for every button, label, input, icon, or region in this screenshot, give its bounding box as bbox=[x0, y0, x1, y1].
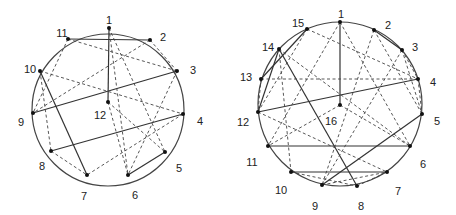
node-2 bbox=[148, 38, 152, 42]
node-label-6: 6 bbox=[132, 189, 138, 201]
node-label-4: 4 bbox=[430, 76, 436, 88]
boundary-circle bbox=[32, 34, 184, 186]
node-label-1: 1 bbox=[106, 14, 112, 26]
circular-graph-diagrams: 123456789101112 12345678910111213141516 bbox=[0, 0, 456, 215]
node-label-8: 8 bbox=[39, 160, 45, 172]
edge-14-6 bbox=[279, 49, 410, 146]
node-6 bbox=[126, 173, 130, 177]
edge-10-4 bbox=[40, 71, 183, 114]
edge-2-3 bbox=[374, 30, 402, 50]
node-label-11: 11 bbox=[56, 27, 67, 39]
edge-2-3 bbox=[150, 40, 177, 71]
node-1 bbox=[338, 20, 342, 24]
edge-1-11 bbox=[268, 22, 340, 146]
node-label-6: 6 bbox=[420, 158, 426, 170]
edge-15-13 bbox=[261, 29, 307, 79]
node-label-2: 2 bbox=[385, 19, 391, 31]
node-6 bbox=[408, 144, 412, 148]
node-7 bbox=[85, 173, 89, 177]
node-4 bbox=[416, 77, 420, 81]
node-2 bbox=[372, 28, 376, 32]
edge-2-9 bbox=[322, 30, 374, 185]
node-label-12: 12 bbox=[94, 109, 106, 121]
edge-3-4 bbox=[402, 50, 418, 79]
edge-12-7 bbox=[258, 112, 387, 172]
node-15 bbox=[305, 27, 309, 31]
node-16 bbox=[338, 103, 342, 107]
node-4 bbox=[181, 112, 185, 116]
node-7 bbox=[385, 170, 389, 174]
edge-12-6 bbox=[108, 102, 128, 175]
edge-3-9 bbox=[33, 71, 177, 113]
edge-5-6 bbox=[128, 152, 165, 175]
node-8 bbox=[49, 149, 53, 153]
node-label-16: 16 bbox=[325, 115, 337, 127]
node-label-8: 8 bbox=[358, 200, 364, 212]
node-3 bbox=[400, 48, 404, 52]
node-label-1: 1 bbox=[338, 8, 344, 20]
node-10 bbox=[38, 69, 42, 73]
edge-4-7 bbox=[87, 114, 183, 175]
node-8 bbox=[355, 184, 359, 188]
node-label-13: 13 bbox=[240, 71, 252, 83]
node-label-10: 10 bbox=[24, 63, 36, 75]
node-5 bbox=[163, 150, 167, 154]
edge-1-6 bbox=[340, 22, 410, 146]
node-1 bbox=[107, 26, 111, 30]
node-label-4: 4 bbox=[197, 115, 203, 127]
node-9 bbox=[31, 111, 35, 115]
node-9 bbox=[320, 183, 324, 187]
node-12 bbox=[106, 100, 110, 104]
node-label-15: 15 bbox=[292, 17, 304, 29]
node-10 bbox=[289, 170, 293, 174]
edge-8-7 bbox=[357, 172, 387, 186]
node-label-3: 3 bbox=[412, 41, 418, 53]
node-label-5: 5 bbox=[176, 162, 182, 174]
edge-4-8 bbox=[51, 114, 183, 151]
node-label-10: 10 bbox=[275, 184, 287, 196]
right-circle-graph: 12345678910111213141516 bbox=[237, 8, 440, 212]
node-label-7: 7 bbox=[81, 190, 87, 202]
node-label-3: 3 bbox=[190, 64, 196, 76]
node-label-9: 9 bbox=[18, 116, 24, 128]
node-12 bbox=[256, 110, 260, 114]
node-14 bbox=[277, 47, 281, 51]
node-13 bbox=[259, 77, 263, 81]
node-3 bbox=[175, 69, 179, 73]
node-label-7: 7 bbox=[395, 185, 401, 197]
node-label-11: 11 bbox=[246, 156, 257, 168]
node-label-14: 14 bbox=[262, 41, 274, 53]
node-label-9: 9 bbox=[312, 200, 318, 212]
node-11 bbox=[266, 144, 270, 148]
left-circle-graph: 123456789101112 bbox=[18, 14, 203, 202]
edge-15-4 bbox=[307, 29, 418, 79]
node-5 bbox=[420, 112, 424, 116]
node-label-2: 2 bbox=[160, 31, 166, 43]
edge-16-6 bbox=[340, 105, 410, 146]
node-label-12: 12 bbox=[237, 116, 249, 128]
node-label-5: 5 bbox=[434, 115, 440, 127]
